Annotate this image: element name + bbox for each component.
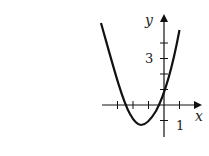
parabola-graph: y x 3 1 bbox=[0, 0, 209, 156]
x-axis-label: x bbox=[195, 108, 203, 124]
y-tick-label-3: 3 bbox=[145, 51, 153, 66]
x-tick-label-1: 1 bbox=[176, 118, 184, 133]
y-axis-label: y bbox=[144, 12, 154, 28]
